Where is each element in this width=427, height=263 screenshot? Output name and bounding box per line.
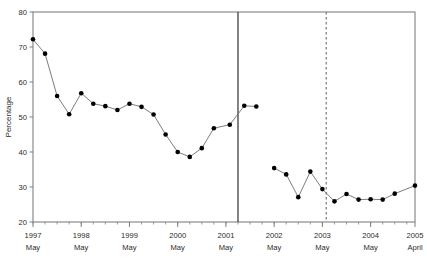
series-1-point — [43, 51, 48, 56]
x-axis-tick-label-month: April — [407, 243, 423, 252]
y-axis-tick-label: 20 — [19, 218, 27, 227]
chart-container: 20304050607080Percentage1997May1998May19… — [0, 0, 427, 263]
series-1-point — [151, 112, 156, 117]
series-1-line — [33, 39, 256, 157]
series-1-point — [79, 91, 84, 96]
series-1-point — [31, 37, 36, 42]
y-axis-tick-label: 40 — [19, 148, 27, 157]
series-1-point — [103, 104, 108, 109]
x-axis-tick-label-year: 1997 — [25, 231, 42, 240]
series-1-point — [254, 104, 259, 109]
series-2-point — [413, 183, 418, 188]
series-2-point — [308, 169, 313, 174]
x-axis-tick-label-year: 2000 — [169, 231, 186, 240]
series-2-point — [344, 192, 349, 197]
y-axis-tick-label: 50 — [19, 113, 27, 122]
series-1-point — [187, 155, 192, 160]
x-axis-tick-label-month: May — [363, 243, 378, 252]
series-1-point — [67, 112, 72, 117]
line-chart: 20304050607080Percentage1997May1998May19… — [0, 0, 427, 263]
series-2-point — [272, 166, 277, 171]
series-2-point — [368, 197, 373, 202]
x-axis-tick-label-year: 2003 — [314, 231, 331, 240]
x-axis-tick-label-month: May — [267, 243, 282, 252]
x-axis-tick-label-month: May — [219, 243, 234, 252]
x-axis-tick-label-month: May — [122, 243, 137, 252]
series-1-point — [139, 105, 144, 110]
series-1-point — [115, 108, 120, 113]
series-1-point — [55, 94, 60, 99]
x-axis-tick-label-year: 2001 — [217, 231, 234, 240]
y-axis-tick-label: 30 — [19, 183, 27, 192]
series-1-point — [200, 146, 205, 151]
series-1-point — [91, 101, 96, 106]
series-2-point — [380, 197, 385, 202]
series-1-point — [242, 104, 247, 109]
x-axis-tick-label-year: 2005 — [407, 231, 424, 240]
y-axis-tick-label: 70 — [19, 43, 27, 52]
x-axis-tick-label-year: 2002 — [266, 231, 283, 240]
x-axis-tick-label-month: May — [315, 243, 330, 252]
x-axis-tick-label-year: 1998 — [73, 231, 90, 240]
series-2-line — [274, 168, 415, 201]
x-axis-tick-label-month: May — [171, 243, 186, 252]
series-2-point — [296, 195, 301, 200]
x-axis-tick-label-year: 2004 — [362, 231, 379, 240]
series-2-point — [356, 197, 361, 202]
series-1-point — [127, 101, 132, 106]
y-axis-label: Percentage — [4, 96, 13, 137]
x-axis-tick-label-month: May — [26, 243, 41, 252]
series-2-point — [320, 187, 325, 192]
y-axis-tick-label: 60 — [19, 78, 27, 87]
plot-frame — [33, 12, 415, 222]
series-1-point — [212, 126, 217, 131]
series-2-point — [284, 172, 289, 177]
series-1-point — [175, 150, 180, 155]
series-1-point — [227, 122, 232, 127]
x-axis-tick-label-month: May — [74, 243, 89, 252]
series-2-point — [392, 191, 397, 196]
series-1-point — [163, 132, 168, 137]
series-2-point — [332, 199, 337, 204]
x-axis-tick-label-year: 1999 — [121, 231, 138, 240]
y-axis-tick-label: 80 — [19, 8, 27, 17]
